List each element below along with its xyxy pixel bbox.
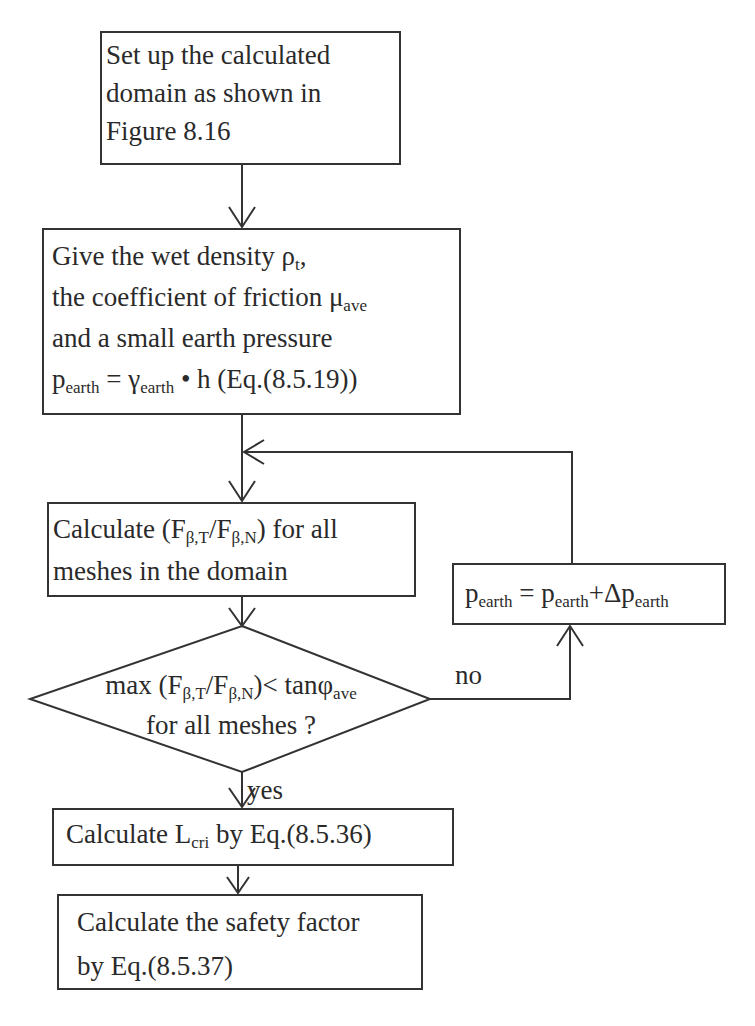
input-line-4: pearth = γearth • h (Eq.(8.5.19)) <box>52 359 367 400</box>
decision-text: max (Fβ,T/Fβ,N)< tanφave for all meshes … <box>86 665 376 745</box>
input-line-2: the coefficient of friction μave <box>52 277 367 318</box>
decision-line-1: max (Fβ,T/Fβ,N)< tanφave <box>86 665 376 705</box>
calc-ratio-line-2: meshes in the domain <box>53 550 338 592</box>
calculate-lcri-text: Calculate Lcri by Eq.(8.5.36) <box>66 815 372 853</box>
calculate-ratio-text: Calculate (Fβ,T/Fβ,N) for all meshes in … <box>53 508 338 592</box>
no-edge-label: no <box>455 660 482 691</box>
safety-line-2: by Eq.(8.5.37) <box>77 944 360 988</box>
input-parameters-text: Give the wet density ρt, the coefficient… <box>52 236 367 400</box>
decision-line-2: for all meshes ? <box>86 705 376 745</box>
yes-edge-label: yes <box>247 775 283 806</box>
setup-domain-text: Set up the calculated domain as shown in… <box>106 36 330 150</box>
input-line-1: Give the wet density ρt, <box>52 236 367 277</box>
calc-ratio-line-1: Calculate (Fβ,T/Fβ,N) for all <box>53 508 338 550</box>
safety-line-1: Calculate the safety factor <box>77 900 360 944</box>
safety-factor-text: Calculate the safety factor by Eq.(8.5.3… <box>77 900 360 988</box>
setup-line-3: Figure 8.16 <box>106 112 330 150</box>
update-pressure-text: pearth = pearth+Δpearth <box>465 574 669 612</box>
setup-line-2: domain as shown in <box>106 74 330 112</box>
input-line-3: and a small earth pressure <box>52 318 367 359</box>
setup-line-1: Set up the calculated <box>106 36 330 74</box>
